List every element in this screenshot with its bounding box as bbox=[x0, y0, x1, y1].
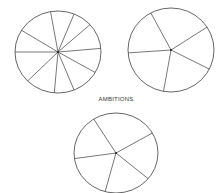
circle-ten-segments bbox=[15, 11, 101, 93]
center-point bbox=[115, 152, 117, 154]
segment-divider bbox=[164, 50, 172, 91]
circle-five-segments-ambitions bbox=[74, 113, 158, 193]
segment-divider bbox=[58, 48, 101, 52]
segment-divider bbox=[171, 27, 207, 50]
segment-divider bbox=[54, 52, 58, 93]
segment-divider bbox=[58, 52, 74, 90]
center-point bbox=[57, 51, 59, 53]
segment-divider bbox=[22, 30, 59, 52]
segment-divider bbox=[58, 25, 90, 52]
segment-divider bbox=[58, 14, 74, 52]
segment-divider bbox=[28, 52, 58, 81]
ambitions-label: AMBITIONS bbox=[0, 96, 224, 102]
segment-divider bbox=[128, 50, 171, 53]
segment-divider bbox=[74, 153, 116, 159]
segment-divider bbox=[171, 50, 209, 69]
segment-divider bbox=[51, 12, 59, 52]
segment-divider bbox=[58, 52, 95, 73]
segment-divider bbox=[94, 119, 116, 153]
segment-divider bbox=[116, 133, 152, 153]
segment-divider bbox=[151, 13, 171, 50]
circle-five-segments-top bbox=[128, 8, 214, 92]
segment-divider bbox=[105, 153, 116, 192]
center-point bbox=[170, 49, 172, 51]
segment-divider bbox=[116, 153, 148, 179]
